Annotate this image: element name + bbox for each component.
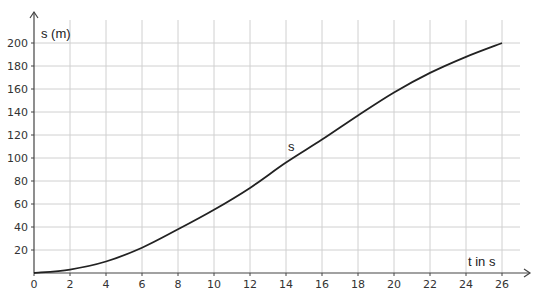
x-tick-label: 24 xyxy=(459,278,473,291)
y-axis-label: s (m) xyxy=(41,26,71,41)
y-tick-labels: 20406080100120140160180200 xyxy=(7,37,34,257)
x-tick-labels: 02468101214161820222426 xyxy=(31,273,510,291)
x-tick-label: 20 xyxy=(387,278,401,291)
line-chart: 02468101214161820222426 2040608010012014… xyxy=(0,0,535,301)
y-tick-label: 60 xyxy=(14,198,28,211)
x-axis-label: t in s xyxy=(468,254,496,269)
x-tick-label: 4 xyxy=(103,278,110,291)
x-tick-label: 8 xyxy=(175,278,182,291)
x-tick-label: 18 xyxy=(351,278,365,291)
grid-lines xyxy=(34,20,520,273)
y-tick-label: 100 xyxy=(7,152,28,165)
axes xyxy=(30,12,530,277)
x-tick-label: 0 xyxy=(31,278,38,291)
y-tick-label: 120 xyxy=(7,129,28,142)
y-tick-label: 180 xyxy=(7,60,28,73)
y-tick-label: 140 xyxy=(7,106,28,119)
curve-label: s xyxy=(288,139,295,154)
x-tick-label: 16 xyxy=(315,278,329,291)
x-tick-label: 2 xyxy=(67,278,74,291)
x-tick-label: 22 xyxy=(423,278,437,291)
y-tick-label: 40 xyxy=(14,221,28,234)
x-tick-label: 10 xyxy=(207,278,221,291)
y-tick-label: 20 xyxy=(14,244,28,257)
x-tick-label: 6 xyxy=(139,278,146,291)
x-tick-label: 14 xyxy=(279,278,293,291)
x-tick-label: 26 xyxy=(495,278,509,291)
y-tick-label: 200 xyxy=(7,37,28,50)
y-tick-label: 80 xyxy=(14,175,28,188)
y-tick-label: 160 xyxy=(7,83,28,96)
x-tick-label: 12 xyxy=(243,278,257,291)
